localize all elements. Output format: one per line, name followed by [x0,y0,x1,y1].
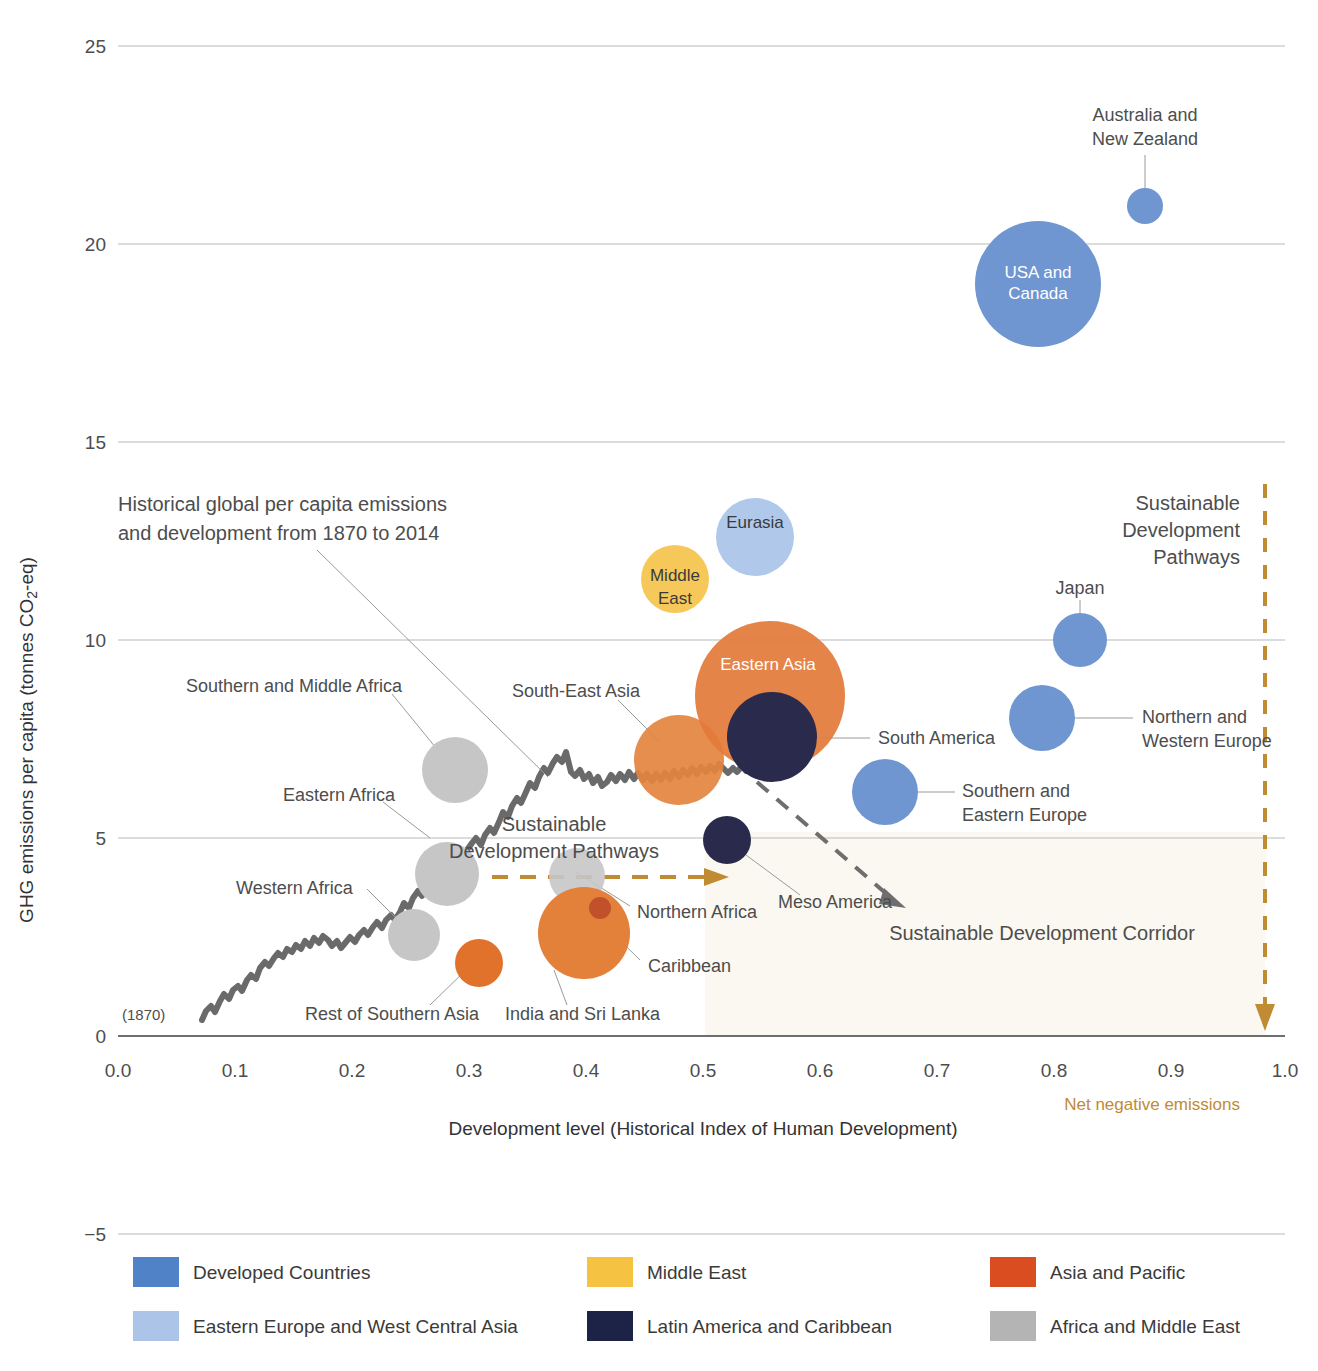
x-tick-9: 0.9 [1158,1060,1184,1081]
bubble-caribbean[interactable] [589,897,611,919]
x-axis-ticks: 0.0 0.1 0.2 0.3 0.4 0.5 0.6 0.7 0.8 0.9 … [105,1060,1298,1081]
bubble-south-america[interactable] [727,692,817,782]
x-tick-1: 0.1 [222,1060,248,1081]
bubble-label-eastern-asia: Eastern Asia [720,655,816,674]
bubble-label-eurasia: Eurasia [726,513,784,532]
bubble-label-se-europe-2: Eastern Europe [962,805,1087,825]
sdp-mid-line-2: Development Pathways [449,840,659,862]
label-south-east-asia: South-East Asia [512,681,641,701]
x-tick-3: 0.3 [456,1060,482,1081]
bubble-eurasia[interactable] [716,498,794,576]
bubble-western-africa[interactable] [388,909,440,961]
y-tick-15: 15 [85,432,106,453]
y-tick-5: 5 [95,828,106,849]
bubble-japan[interactable] [1053,613,1107,667]
legend-label-1: Middle East [647,1262,747,1283]
bubble-label-usa-canada-2: Canada [1008,284,1068,303]
x-tick-7: 0.7 [924,1060,950,1081]
label-eastern-africa: Eastern Africa [283,785,396,805]
y-tick-neg5: −5 [84,1224,106,1245]
leader-india-sri-lanka [554,970,567,1005]
start-year-label: (1870) [122,1006,165,1023]
bubble-label-middle-east-2: East [658,589,692,608]
y-tick-25: 25 [85,36,106,57]
legend-label-3: Eastern Europe and West Central Asia [193,1316,518,1337]
bubble-meso-america[interactable] [703,816,751,864]
leader-southern-middle-africa [392,694,436,748]
legend-label-0: Developed Countries [193,1262,370,1283]
bubble-label-japan: Japan [1055,578,1104,598]
legend-swatch-5[interactable] [990,1311,1036,1341]
x-tick-2: 0.2 [339,1060,365,1081]
y-axis-title: GHG emissions per capita (tonnes CO2-eq) [16,557,40,923]
x-tick-0: 0.0 [105,1060,131,1081]
sdp-mid-line-1: Sustainable [502,813,607,835]
y-tick-20: 20 [85,234,106,255]
corridor-label: Sustainable Development Corridor [889,922,1195,944]
bubble-india-sri-lanka[interactable] [538,887,630,979]
sdp-right-line-2: Development [1122,519,1240,541]
chart-svg: 25 20 15 10 5 0 −5 GHG emissions per cap… [0,0,1318,1371]
bubble-rest-of-southern-asia[interactable] [455,939,503,987]
bubble-label-middle-east-1: Middle [650,566,700,585]
gridlines [118,46,1285,1234]
bubble-southern-middle-africa[interactable] [422,737,488,803]
bubble-label-australia-nz-2: New Zealand [1092,129,1198,149]
y-tick-10: 10 [85,630,106,651]
x-tick-5: 0.5 [690,1060,716,1081]
label-meso-america: Meso America [778,892,893,912]
label-northern-africa: Northern Africa [637,902,758,922]
net-negative-emissions-label: Net negative emissions [1064,1095,1240,1114]
historical-note-line-2: and development from 1870 to 2014 [118,522,439,544]
leader-eastern-africa [383,802,430,838]
sdp-right-line-1: Sustainable [1135,492,1240,514]
sdp-right-line-3: Pathways [1153,546,1240,568]
bubble-label-se-europe-1: Southern and [962,781,1070,801]
legend-label-5: Africa and Middle East [1050,1316,1241,1337]
bubble-label-nw-europe-2: Western Europe [1142,731,1272,751]
legend: Developed Countries Middle East Asia and… [133,1257,1241,1341]
x-tick-8: 0.8 [1041,1060,1067,1081]
historical-note-line-1: Historical global per capita emissions [118,493,447,515]
x-tick-4: 0.4 [573,1060,600,1081]
label-india-sri-lanka: India and Sri Lanka [505,1004,661,1024]
legend-swatch-1[interactable] [587,1257,633,1287]
legend-swatch-3[interactable] [133,1311,179,1341]
x-axis-title: Development level (Historical Index of H… [448,1118,957,1139]
bubble-northern-western-europe[interactable] [1009,685,1075,751]
bubble-southern-eastern-europe[interactable] [852,759,918,825]
y-tick-0: 0 [95,1026,106,1047]
orange-horizontal-arrow [492,868,729,886]
bubble-label-nw-europe-1: Northern and [1142,707,1247,727]
legend-label-2: Asia and Pacific [1050,1262,1185,1283]
label-rest-of-southern-asia: Rest of Southern Asia [305,1004,480,1024]
label-south-america: South America [878,728,996,748]
chart-figure: 25 20 15 10 5 0 −5 GHG emissions per cap… [0,0,1318,1371]
legend-swatch-0[interactable] [133,1257,179,1287]
legend-label-4: Latin America and Caribbean [647,1316,892,1337]
y-axis-ticks: 25 20 15 10 5 0 −5 [84,36,106,1245]
bubble-label-usa-canada: USA and [1004,263,1071,282]
label-western-africa: Western Africa [236,878,354,898]
bubble-australia-new-zealand[interactable] [1127,188,1163,224]
legend-swatch-2[interactable] [990,1257,1036,1287]
bubble-label-australia-nz-1: Australia and [1092,105,1197,125]
legend-swatch-4[interactable] [587,1311,633,1341]
label-caribbean: Caribbean [648,956,731,976]
x-tick-10: 1.0 [1272,1060,1298,1081]
x-tick-6: 0.6 [807,1060,833,1081]
label-southern-middle-africa: Southern and Middle Africa [186,676,403,696]
